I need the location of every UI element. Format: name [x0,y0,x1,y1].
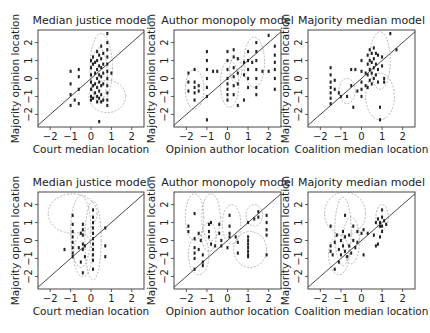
x-tick-label: 1 [108,131,114,142]
data-point [100,75,102,78]
data-point [218,232,220,235]
confidence-ellipse [370,32,391,89]
data-point [330,97,332,100]
data-point [371,82,373,85]
y-tick-label: 2 [159,39,170,45]
data-point [330,91,332,94]
data-point [194,251,196,254]
data-point [72,230,74,233]
x-tick-label: 2 [265,293,271,304]
y-tick-label: 0 [159,75,170,81]
data-point [361,70,363,73]
data-point [210,242,212,245]
x-axis-label: Coalition median location [295,143,429,155]
data-point [348,244,350,247]
x-tick-label: −2 [43,293,58,304]
data-point [100,45,102,48]
data-point [375,244,377,247]
y-tick-label: 2 [293,39,304,45]
data-point [80,260,82,263]
data-point [354,246,356,249]
data-point [90,80,92,83]
data-point [106,70,108,73]
data-point [194,268,196,271]
data-point [373,57,375,60]
data-point [247,246,249,249]
scatter-panel-5: −2−1012−2−1012Author monopoly modelOpini… [145,176,294,317]
x-tick-label: 2 [399,293,405,304]
data-point [375,63,377,66]
data-point [206,77,208,80]
data-point [229,235,231,238]
plot-area [300,187,423,295]
data-point [96,59,98,62]
confidence-ellipse [74,233,92,276]
data-point [106,91,108,94]
data-point [340,253,342,256]
data-point [92,221,94,224]
figure: −2−1012−2−1012Median justice modelCourt … [0,0,430,333]
data-point [330,244,332,247]
confidence-ellipse [329,235,350,275]
x-tick-label: −2 [179,293,194,304]
data-point [255,41,257,44]
data-point [194,91,196,94]
data-point [383,77,385,80]
data-point [381,55,383,58]
data-point [330,86,332,89]
data-point [206,50,208,53]
data-point [379,225,381,228]
data-point [247,68,249,71]
x-tick-label: 2 [129,293,135,304]
data-point [78,102,80,105]
data-point [375,221,377,224]
data-point [78,88,80,91]
data-point [237,82,239,85]
data-point [237,104,239,107]
y-tick-label: −2 [293,269,304,284]
plot-area [30,187,152,295]
data-point [247,250,249,253]
y-tick-label: −1 [159,89,170,104]
x-tick-label: 2 [399,131,405,142]
data-point [330,80,332,83]
data-point [274,54,276,57]
data-point [198,232,200,235]
data-point [251,61,253,64]
data-point [72,241,74,244]
data-point [92,216,94,219]
data-point [198,84,200,87]
data-point [255,93,257,96]
data-point [369,59,371,62]
data-point [90,66,92,69]
data-point [338,260,340,263]
data-point [96,77,98,80]
data-point [233,93,235,96]
data-point [373,234,375,237]
data-point [255,59,257,62]
data-point [90,95,92,98]
data-point [346,255,348,258]
data-point [379,235,381,238]
confidence-ellipse [185,70,204,110]
data-point [369,79,371,82]
x-tick-label: −1 [63,131,78,142]
y-axis-label: Majority opinion location [145,14,157,143]
panel-title: Majority median model [298,14,425,27]
data-point [336,234,338,237]
y-tick-label: −2 [159,269,170,284]
data-point [104,226,106,229]
data-point [194,80,196,83]
y-tick-label: 1 [293,219,304,225]
data-point [70,82,72,85]
data-point [338,248,340,251]
data-point [356,241,358,244]
data-point [92,84,94,87]
data-point [100,93,102,96]
data-point [210,221,212,224]
data-point [371,61,373,64]
data-point [92,55,94,58]
data-point [74,98,76,101]
data-point [381,225,383,228]
data-point [96,86,98,89]
